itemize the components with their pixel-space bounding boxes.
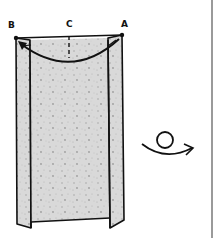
point-b-label: B [8, 21, 15, 30]
point-c-label: C [66, 20, 73, 29]
turn-over-icon [142, 132, 193, 155]
point-a-label: A [121, 20, 128, 29]
diagram-svg [0, 0, 214, 238]
left-flap [16, 38, 31, 228]
point-a-dot [120, 33, 124, 37]
left-fold-line [30, 40, 31, 228]
point-b-dot [14, 36, 18, 40]
panel-border [211, 0, 213, 238]
origami-diagram: B C A [0, 0, 214, 238]
paper-shape [16, 35, 124, 228]
center-panel [30, 38, 110, 222]
